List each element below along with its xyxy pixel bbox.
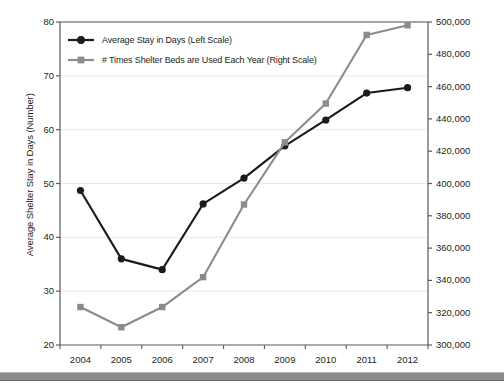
data-point <box>159 304 165 310</box>
data-point <box>363 32 369 38</box>
axis-tick-marks <box>56 22 432 349</box>
legend-label: Average Stay in Days (Left Scale) <box>102 35 232 45</box>
series-1 <box>77 84 411 273</box>
data-point <box>159 266 166 273</box>
data-point <box>241 201 247 207</box>
chart-container: Average Shelter Stay in Days (Number) An… <box>0 0 504 389</box>
data-point <box>322 116 329 123</box>
data-point <box>363 89 370 96</box>
data-point <box>118 255 125 262</box>
data-point <box>404 22 410 28</box>
data-point <box>77 187 84 194</box>
data-point <box>200 200 207 207</box>
data-point <box>200 274 206 280</box>
legend-item-1: Average Stay in Days (Left Scale) <box>68 35 232 45</box>
data-point <box>282 139 288 145</box>
legend-label: # Times Shelter Beds are Used Each Year … <box>102 55 317 65</box>
data-point <box>240 175 247 182</box>
legend-marker <box>77 36 85 44</box>
footer-rule <box>0 372 504 381</box>
data-series <box>77 22 411 330</box>
legend-marker <box>78 57 85 64</box>
data-point <box>77 304 83 310</box>
data-point <box>323 100 329 106</box>
chart-legend: Average Stay in Days (Left Scale)# Times… <box>68 35 317 65</box>
data-point <box>404 84 411 91</box>
legend-item-2: # Times Shelter Beds are Used Each Year … <box>68 55 317 65</box>
plot-area: Average Stay in Days (Left Scale)# Times… <box>0 0 504 389</box>
data-point <box>118 324 124 330</box>
